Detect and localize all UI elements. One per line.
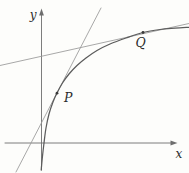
figure-canvas: y x P Q xyxy=(0,0,189,173)
x-axis-arrow-icon xyxy=(171,141,178,146)
point-p-label: P xyxy=(63,90,73,105)
point-p-marker xyxy=(56,92,59,95)
x-axis-label: x xyxy=(176,147,183,161)
figure: y x P Q xyxy=(0,0,189,173)
point-q-marker xyxy=(142,31,145,34)
point-q-label: Q xyxy=(136,35,146,50)
y-axis-arrow-icon xyxy=(39,9,44,16)
y-axis-label: y xyxy=(29,8,37,22)
